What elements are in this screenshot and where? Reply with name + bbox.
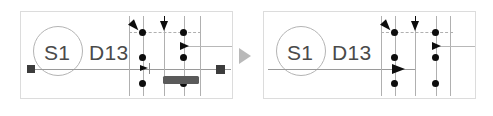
event-dot: [391, 54, 398, 61]
event-dot: [391, 29, 398, 36]
state-node-circle-label-before: S1: [44, 42, 70, 63]
play-triangle-icon: [239, 48, 251, 64]
upper-message-line-after: [438, 46, 476, 47]
event-dot: [139, 29, 146, 36]
state-node-side-label-after: D13: [332, 42, 371, 63]
event-dot: [432, 54, 439, 61]
down-arrow-stem-after: [415, 16, 416, 24]
event-dot: [180, 54, 187, 61]
event-dot: [391, 80, 398, 87]
activation-bar-before[interactable]: [163, 76, 199, 84]
right-square-marker-before[interactable]: [216, 65, 225, 74]
before-panel[interactable]: S1 D13: [20, 11, 233, 99]
right-arrow-upper-before: [180, 42, 189, 50]
after-panel[interactable]: S1 D13: [263, 11, 476, 99]
right-arrow-upper-after: [432, 42, 441, 50]
main-message-line-before: [31, 69, 231, 70]
state-node-side-label-before: D13: [89, 42, 128, 63]
left-square-marker-before[interactable]: [27, 65, 35, 73]
message-tick-before: [149, 63, 150, 74]
lifeline-5-before: [200, 16, 201, 96]
lifeline-1-after: [381, 16, 382, 96]
right-arrow-lower-after: [392, 64, 405, 74]
lifeline-5-after: [450, 16, 451, 96]
lifeline-1-before: [129, 16, 130, 96]
diagram-canvas: S1 D13: [0, 0, 493, 116]
upper-message-line-before: [186, 46, 232, 47]
event-dot: [432, 80, 439, 87]
event-dot: [180, 29, 187, 36]
event-dot: [139, 54, 146, 61]
down-arrow-stem-before: [164, 16, 165, 24]
right-arrow-lower-before: [140, 65, 148, 71]
event-dot: [432, 29, 439, 36]
event-dot: [139, 80, 146, 87]
state-node-circle-label-after: S1: [287, 42, 313, 63]
